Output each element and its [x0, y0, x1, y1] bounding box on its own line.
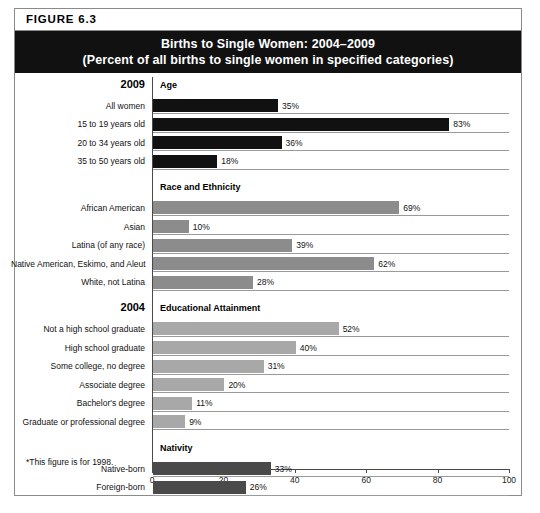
bar-row: Not a high school graduate52% — [15, 322, 521, 341]
year-label-2009: 2009 — [75, 78, 145, 90]
bar-rect — [153, 378, 224, 391]
chart-title-line-1: Births to Single Women: 2004–2009 — [15, 36, 521, 52]
bar-category-label: High school graduate — [11, 343, 145, 353]
bar-category-label: Bachelor's degree — [11, 398, 145, 408]
section-header-educational-attainment: Educational Attainment — [160, 303, 260, 313]
bar-row: 20 to 34 years old36% — [15, 136, 521, 155]
bar-value-label: 18% — [221, 156, 238, 166]
bar-rect — [153, 99, 278, 112]
bar-rect — [153, 257, 374, 270]
bar-category-label: Some college, no degree — [11, 361, 145, 371]
bar-row: Bachelor's degree11% — [15, 397, 521, 416]
bar-rect — [153, 155, 217, 168]
section-header-age: Age — [160, 80, 177, 90]
bar-value-label: 28% — [257, 277, 274, 287]
bar-baseline — [153, 271, 509, 272]
bar-value-label: 31% — [268, 361, 285, 371]
plot-area: 020406080100 Age2009All women35%15 to 19… — [15, 73, 521, 497]
footnote: *This figure is for 1998. — [26, 457, 113, 467]
bar-category-label: Associate degree — [11, 380, 145, 390]
bar-baseline — [153, 476, 509, 477]
bar-category-label: Native American, Eskimo, and Aleut — [11, 259, 145, 269]
bar-baseline — [153, 495, 509, 496]
chart-title-line-2: (Percent of all births to single women i… — [15, 52, 521, 68]
bar-category-label: Foreign-born — [11, 482, 145, 492]
bar-baseline — [153, 392, 509, 393]
bar-rect — [153, 322, 339, 335]
bar-row: 35 to 50 years old18% — [15, 155, 521, 174]
bar-row: Some college, no degree31% — [15, 360, 521, 379]
bar-category-label: White, not Latina — [11, 277, 145, 287]
bar-rect — [153, 415, 185, 428]
bar-category-label: 35 to 50 years old — [11, 156, 145, 166]
bar-value-label: 36% — [286, 138, 303, 148]
figure-label-bar: FIGURE 6.3 — [15, 9, 521, 31]
bar-row: African American69% — [15, 201, 521, 220]
bar-row: Associate degree20% — [15, 378, 521, 397]
bar-value-label: 33% — [275, 464, 292, 474]
bar-value-label: 52% — [343, 324, 360, 334]
bar-row: 15 to 19 years old83% — [15, 118, 521, 137]
figure-container: FIGURE 6.3 Births to Single Women: 2004–… — [14, 8, 522, 496]
bar-category-label: Graduate or professional degree — [11, 417, 145, 427]
figure-number-label: FIGURE 6.3 — [26, 13, 97, 25]
bar-baseline — [153, 132, 509, 133]
bar-value-label: 35% — [282, 101, 299, 111]
bar-baseline — [153, 429, 509, 430]
bar-baseline — [153, 290, 509, 291]
bar-baseline — [153, 253, 509, 254]
bar-category-label: Asian — [11, 222, 145, 232]
bar-row: Graduate or professional degree9% — [15, 415, 521, 434]
section-header-race-and-ethnicity: Race and Ethnicity — [160, 182, 241, 192]
bar-baseline — [153, 411, 509, 412]
bar-rect — [153, 118, 449, 131]
bar-row: Latina (of any race)39% — [15, 239, 521, 258]
bar-rect — [153, 239, 292, 252]
bar-baseline — [153, 169, 509, 170]
bar-rect — [153, 201, 399, 214]
bar-rect — [153, 397, 192, 410]
bar-baseline — [153, 150, 509, 151]
bar-rect — [153, 276, 253, 289]
bar-row: High school graduate40% — [15, 341, 521, 360]
bar-value-label: 10% — [193, 222, 210, 232]
bar-row: Native American, Eskimo, and Aleut62% — [15, 257, 521, 276]
bar-category-label: Not a high school graduate — [11, 324, 145, 334]
bar-row: Foreign-born26% — [15, 481, 521, 500]
bar-rect — [153, 220, 189, 233]
bar-baseline — [153, 234, 509, 235]
bar-category-label: All women — [11, 101, 145, 111]
bar-value-label: 40% — [300, 343, 317, 353]
bar-baseline — [153, 336, 509, 337]
bar-category-label: 20 to 34 years old — [11, 138, 145, 148]
bar-value-label: 9% — [189, 417, 201, 427]
bar-category-label: Latina (of any race) — [11, 240, 145, 250]
bar-baseline — [153, 355, 509, 356]
bar-value-label: 39% — [296, 240, 313, 250]
bar-row: All women35% — [15, 99, 521, 118]
bar-value-label: 62% — [378, 259, 395, 269]
bar-rect — [153, 341, 296, 354]
bar-value-label: 69% — [403, 203, 420, 213]
bar-row: Asian10% — [15, 220, 521, 239]
bar-rect — [153, 462, 271, 475]
bar-rect — [153, 136, 282, 149]
bar-rect — [153, 481, 246, 494]
bar-value-label: 26% — [250, 482, 267, 492]
bar-rect — [153, 360, 264, 373]
bar-row: White, not Latina28% — [15, 276, 521, 295]
bar-value-label: 83% — [453, 119, 470, 129]
bar-baseline — [153, 113, 509, 114]
bar-category-label: 15 to 19 years old — [11, 119, 145, 129]
chart-title-banner: Births to Single Women: 2004–2009 (Perce… — [15, 31, 521, 73]
bar-baseline — [153, 374, 509, 375]
bar-value-label: 20% — [228, 380, 245, 390]
section-header-nativity: Nativity — [160, 443, 193, 453]
year-label-2004: 2004 — [75, 301, 145, 313]
bar-baseline — [153, 215, 509, 216]
bar-category-label: African American — [11, 203, 145, 213]
bar-value-label: 11% — [196, 398, 212, 408]
